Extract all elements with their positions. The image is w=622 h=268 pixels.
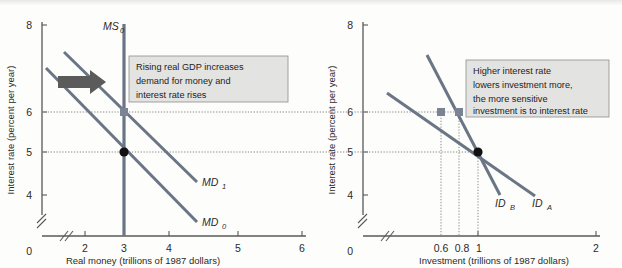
right-xtick-06: 0.6 [434, 242, 449, 254]
marker-common-point [473, 147, 482, 156]
left-ytick-0: 0 [26, 245, 32, 257]
right-y-axis-break [358, 214, 367, 228]
right-xtick-08: 0.8 [455, 242, 470, 254]
left-ytick-6: 6 [26, 106, 32, 118]
right-ytick-0: 0 [347, 245, 353, 257]
right-note-line-3: the more sensitive [473, 94, 548, 104]
right-x-ticks [478, 231, 596, 236]
right-ytick-4: 4 [347, 189, 353, 201]
left-xtick-3: 3 [121, 242, 127, 254]
marker-IDA-at-6 [455, 108, 463, 116]
economics-figure: 8 6 5 4 0 2 3 4 5 6 [0, 0, 622, 268]
label-MD1: MD [202, 176, 219, 188]
marker-IDB-at-6 [437, 108, 445, 116]
right-xtick-2: 2 [593, 242, 599, 254]
left-y-axis-break [37, 214, 46, 228]
left-ytick-4: 4 [26, 189, 32, 201]
left-ytick-5: 5 [26, 146, 32, 158]
marker-equilibrium-5 [119, 147, 128, 156]
label-IDB: ID [495, 197, 506, 209]
left-xtick-2: 2 [82, 242, 88, 254]
money-market-panel: 8 6 5 4 0 2 3 4 5 6 [5, 19, 311, 266]
left-annotation: Rising real GDP increases demand for mon… [129, 56, 288, 102]
left-ytick-8: 8 [26, 19, 32, 31]
label-IDA-sub: A [546, 203, 552, 212]
top-band-divider [0, 0, 622, 5]
left-note-line-3: interest rate rises [136, 90, 207, 100]
investment-demand-panel: 8 6 5 4 0 0.6 0.8 1 2 [311, 19, 609, 266]
left-y-axis-title: Interest rate (percent per year) [5, 66, 16, 195]
label-IDB-sub: B [510, 203, 515, 212]
right-note-line-2: lowers investment more, [473, 80, 573, 90]
label-MD1-sub: 1 [222, 182, 226, 191]
left-xtick-6: 6 [299, 242, 305, 254]
label-IDA: ID [532, 197, 543, 209]
left-x-ticks [85, 231, 302, 236]
right-note-line-1: Higher interest rate [473, 66, 551, 76]
left-note-line-1: Rising real GDP increases [136, 62, 244, 72]
right-annotation: Higher interest rate lowers investment m… [466, 60, 609, 117]
right-y-ticks [363, 25, 368, 195]
right-x-axis-title: Investment (trillions of 1987 dollars) [419, 255, 569, 266]
left-xtick-5: 5 [235, 242, 241, 254]
right-ytick-8: 8 [347, 19, 353, 31]
right-note-line-4: investment is to interest rate [473, 106, 588, 116]
left-y-ticks [42, 25, 47, 195]
label-MS0: MS [103, 20, 119, 32]
right-xtick-1: 1 [476, 242, 482, 254]
left-xtick-4: 4 [166, 242, 172, 254]
left-note-line-2: demand for money and [136, 76, 231, 86]
marker-equilibrium-6 [120, 108, 128, 116]
label-MD0-sub: 0 [222, 222, 227, 231]
shift-arrow-icon [58, 70, 106, 94]
left-x-axis-title: Real money (trillions of 1987 dollars) [66, 255, 220, 266]
figure-canvas: 8 6 5 4 0 2 3 4 5 6 [0, 0, 622, 268]
label-MD0: MD [202, 216, 219, 228]
right-y-axis-title: Interest rate (percent per year) [326, 66, 337, 195]
